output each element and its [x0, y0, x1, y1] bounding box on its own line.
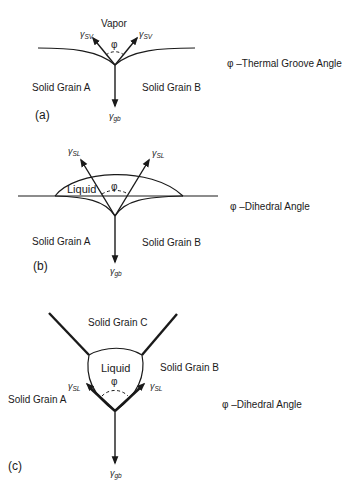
panel-c: Solid Grain C Liquid φ γSL γSL γgb Solid…: [8, 313, 302, 480]
liquid-label-b: Liquid: [67, 183, 96, 195]
panel-a: Vapor φ γSV γSV γgb Solid Grain A Solid …: [32, 18, 342, 123]
phi-symbol-b: φ: [111, 181, 118, 192]
phi-symbol-c: φ: [111, 376, 118, 387]
panel-b: Liquid φ γSL γSL γgb Solid Grain A Solid…: [18, 146, 310, 278]
gamma-sv-right-arrow: [115, 38, 137, 65]
angle-arc-c: [102, 390, 128, 396]
gamma-gb-label-a: γgb: [109, 111, 121, 123]
gamma-sl-left-label-b: γSL: [68, 146, 81, 157]
panel-tag-a: (a): [35, 108, 50, 122]
thermal-groove-angle-legend: φ –Thermal Groove Angle: [227, 58, 342, 69]
grain-boundary-diagram: Vapor φ γSV γSV γgb Solid Grain A Solid …: [0, 0, 361, 493]
panel-tag-c: (c): [8, 459, 22, 473]
gamma-sl-right-arrow-c: [115, 384, 144, 411]
gamma-sv-right-label: γSV: [139, 29, 153, 40]
vapor-label: Vapor: [101, 18, 128, 29]
gamma-gb-label-c: γgb: [110, 468, 122, 480]
gamma-sv-left-label: γSV: [80, 29, 94, 40]
grain-boundary-ac: [49, 313, 89, 355]
liquid-label-c: Liquid: [101, 362, 130, 374]
gamma-sl-right-label-b: γSL: [152, 148, 165, 159]
angle-arc-a: [106, 52, 124, 55]
gamma-sl-right-label-c: γSL: [150, 381, 163, 392]
solid-grain-a-label-c: Solid Grain A: [8, 394, 67, 405]
solid-grain-b-label-a: Solid Grain B: [142, 82, 201, 93]
solid-grain-a-label-a: Solid Grain A: [32, 82, 91, 93]
liquid-top-edge: [89, 348, 142, 355]
solid-grain-b-label-b: Solid Grain B: [142, 237, 201, 248]
solid-grain-a-label-b: Solid Grain A: [32, 236, 91, 247]
gamma-sl-left-arrow-c: [87, 384, 115, 411]
liquid-bottom-left: [55, 196, 115, 216]
solid-grain-b-label-c: Solid Grain B: [160, 362, 219, 373]
gamma-gb-label-b: γgb: [110, 266, 122, 278]
dihedral-angle-legend-b: φ –Dihedral Angle: [230, 201, 310, 212]
phi-symbol-a: φ: [111, 39, 118, 50]
solid-grain-c-label: Solid Grain C: [88, 317, 147, 328]
gamma-sl-right-arrow-b: [115, 160, 149, 216]
panel-tag-b: (b): [33, 259, 48, 273]
dihedral-angle-legend-c: φ –Dihedral Angle: [222, 399, 302, 410]
gamma-sl-left-label-c: γSL: [68, 381, 81, 392]
